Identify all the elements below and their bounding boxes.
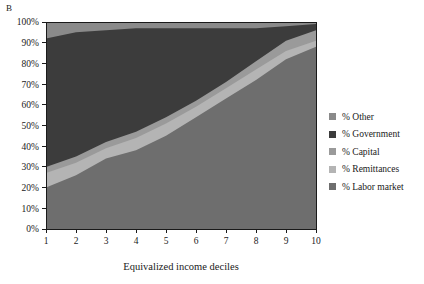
y-tick-label: 70% [22,80,40,90]
legend-swatch-other [329,113,336,120]
legend-swatch-labor-market [329,183,336,190]
y-tick-label: 0% [26,224,39,234]
y-tick-label: 100% [17,17,39,27]
area-series-group [46,22,316,229]
x-tick-label: 1 [44,236,49,246]
chart-legend: % Other % Government % Capital % Remitta… [329,108,424,196]
stacked-area-chart: 0%10%20%30%40%50%60%70%80%90%100% 123456… [0,0,330,284]
legend-label-remittances: % Remittances [342,163,399,175]
legend-item-other[interactable]: % Other [329,108,424,126]
y-tick-label: 60% [22,100,40,110]
y-tick-label: 50% [22,121,40,131]
x-tick-label: 8 [254,236,259,246]
legend-swatch-remittances [329,166,336,173]
legend-label-labor-market: % Labor market [342,181,404,193]
x-tick-label: 6 [194,236,199,246]
x-tick-label: 2 [74,236,79,246]
y-tick-label: 90% [22,38,40,48]
legend-item-government[interactable]: % Government [329,126,424,144]
legend-label-capital: % Capital [342,146,380,158]
chart-plot-area: 0%10%20%30%40%50%60%70%80%90%100% 123456… [0,0,330,284]
x-tick-label: 10 [311,236,321,246]
legend-label-other: % Other [342,111,374,123]
legend-item-remittances[interactable]: % Remittances [329,161,424,179]
y-tick-label: 10% [22,204,40,214]
x-tick-label: 4 [134,236,139,246]
x-tick-label: 5 [164,236,169,246]
figure-panel-b: B 0%10%20%30%40%50%60%70%80%90%100% 1234… [0,0,424,284]
y-tick-label: 40% [22,142,40,152]
legend-item-capital[interactable]: % Capital [329,143,424,161]
x-tick-label: 3 [104,236,109,246]
legend-swatch-capital [329,148,336,155]
y-axis-tick-labels: 0%10%20%30%40%50%60%70%80%90%100% [17,17,39,234]
legend-swatch-government [329,131,336,138]
y-tick-label: 20% [22,183,40,193]
legend-label-government: % Government [342,128,400,140]
x-axis-title: Equivalized income deciles [46,260,316,273]
y-tick-label: 30% [22,162,40,172]
x-tick-label: 9 [284,236,289,246]
legend-item-labor-market[interactable]: % Labor market [329,178,424,196]
x-axis-tick-labels: 12345678910 [44,236,321,246]
x-tick-label: 7 [224,236,229,246]
y-tick-label: 80% [22,59,40,69]
